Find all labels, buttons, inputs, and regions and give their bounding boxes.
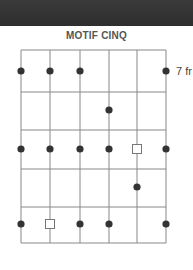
note-dot xyxy=(76,67,83,74)
note-dot xyxy=(46,67,53,74)
note-dot xyxy=(46,145,53,152)
root-note-marker xyxy=(46,220,55,229)
note-dot xyxy=(105,145,112,152)
note-dot xyxy=(162,67,169,74)
note-dot xyxy=(105,220,112,227)
note-dot xyxy=(133,183,140,190)
note-dot xyxy=(162,220,169,227)
note-dot xyxy=(17,220,24,227)
note-dot xyxy=(17,67,24,74)
note-dot xyxy=(76,220,83,227)
fretboard-diagram xyxy=(0,0,193,270)
note-dot xyxy=(17,145,24,152)
note-dot xyxy=(76,145,83,152)
note-dot xyxy=(162,145,169,152)
fret-position-label: 7 fr xyxy=(176,65,192,77)
root-note-marker xyxy=(133,145,142,154)
note-dot xyxy=(105,106,112,113)
